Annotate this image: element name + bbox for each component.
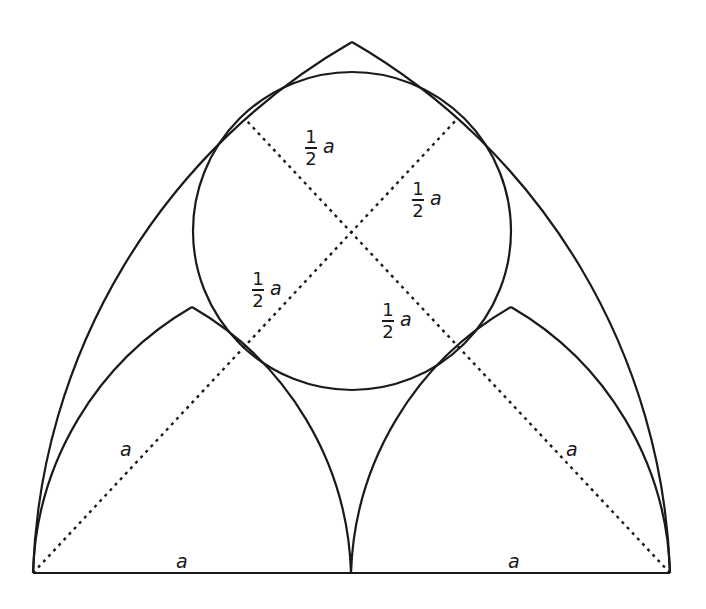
label-half-a-upper-right: 12 a [412, 180, 442, 220]
denominator: 2 [412, 202, 423, 220]
label-half-a-lower-left: 12 a [252, 270, 282, 310]
small-left-arch-left-arc [33, 307, 192, 573]
denominator: 2 [252, 292, 263, 310]
tracery-diagram [0, 0, 706, 609]
small-left-arch-right-arc [192, 307, 351, 573]
label-half-a-upper-left: 12 a [305, 128, 335, 168]
label-half-a-lower-right: 12 a [382, 301, 412, 341]
small-right-arch-right-arc [511, 307, 670, 573]
numerator: 1 [252, 270, 263, 288]
label-a-left-radius: a [120, 440, 132, 459]
numerator: 1 [382, 301, 393, 319]
dashed-line-right-base-to-upper-left [246, 120, 670, 573]
variable: a [270, 277, 282, 299]
variable: a [400, 308, 412, 330]
label-a-right-radius: a [566, 440, 578, 459]
denominator: 2 [382, 323, 393, 341]
label-a-base-left: a [176, 552, 188, 571]
label-a-base-right: a [508, 552, 520, 571]
numerator: 1 [412, 180, 423, 198]
numerator: 1 [305, 128, 316, 146]
variable: a [430, 187, 442, 209]
small-right-arch-left-arc [351, 307, 511, 573]
denominator: 2 [305, 150, 316, 168]
variable: a [323, 135, 335, 157]
